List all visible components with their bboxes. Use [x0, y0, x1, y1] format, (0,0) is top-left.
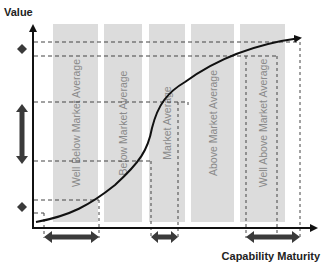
capability-value-diagram: Well Below Market Average Below Market A… [0, 0, 328, 271]
horizontal-double-arrow-icon [44, 231, 99, 243]
maturity-curve [36, 38, 300, 222]
horizontal-double-arrow-icon [246, 231, 300, 243]
vertical-guides [44, 42, 300, 238]
y-axis-label: Value [4, 6, 33, 18]
diagram-lines [0, 0, 328, 271]
y-markers [16, 44, 28, 212]
x-range-markers [44, 231, 300, 243]
diamond-icon [17, 44, 27, 54]
horizontal-guides [34, 42, 300, 213]
diamond-icon [17, 202, 27, 212]
vertical-double-arrow-icon [16, 104, 28, 164]
horizontal-double-arrow-icon [151, 231, 178, 243]
x-axis-label: Capability Maturity [222, 250, 320, 262]
